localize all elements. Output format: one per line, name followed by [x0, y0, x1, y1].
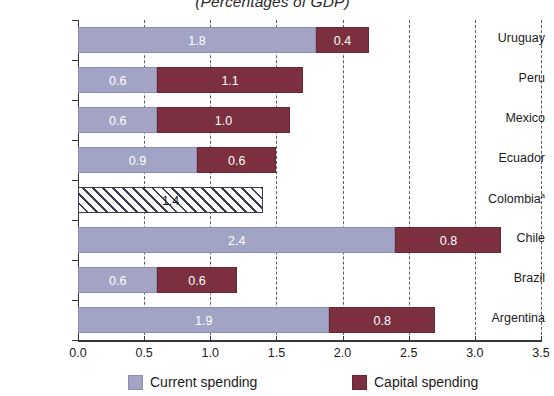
x-tick-label: 1.0 [188, 346, 232, 360]
bar-segment-capital: 1.1 [157, 67, 303, 93]
bar-segment-current: 0.9 [78, 147, 197, 173]
x-tick-label: 1.5 [254, 346, 298, 360]
bar-segment-capital: 0.8 [329, 307, 435, 333]
x-tick-label: 0.5 [122, 346, 166, 360]
bar-value-label: 1.1 [158, 68, 302, 94]
legend-label: Current spending [150, 374, 257, 390]
bar-segment-current: 0.6 [78, 107, 157, 133]
bar-value-label: 0.8 [330, 308, 434, 334]
bar-value-label: 2.4 [79, 228, 394, 254]
x-tick [276, 336, 277, 341]
y-tick [72, 60, 78, 61]
x-tick [541, 336, 542, 341]
x-tick [78, 336, 79, 341]
x-tick [409, 336, 410, 341]
footnote-marker: a [541, 191, 545, 200]
bar-segment-combined: 1.4 [78, 187, 263, 213]
legend-item-capital-spending[interactable]: Capital spending [352, 374, 478, 390]
y-tick [72, 300, 78, 301]
chart-legend: Current spendingCapital spending [0, 374, 545, 394]
x-tick [144, 336, 145, 341]
y-tick [72, 100, 78, 101]
y-tick [72, 260, 78, 261]
x-tick [343, 336, 344, 341]
bar-segment-current: 1.9 [78, 307, 329, 333]
y-axis-label-chile: Chile [471, 231, 545, 245]
x-tick-label: 2.5 [387, 346, 431, 360]
bar-segment-capital: 1.0 [157, 107, 289, 133]
x-axis-line [78, 340, 542, 342]
bar-segment-capital: 0.6 [157, 267, 236, 293]
y-tick [72, 140, 78, 141]
bar-segment-capital: 0.6 [197, 147, 276, 173]
x-tick-label: 0.0 [56, 346, 100, 360]
x-tick [475, 336, 476, 341]
legend-swatch-icon [352, 375, 367, 390]
bar-value-label: 0.6 [79, 68, 156, 94]
y-tick [72, 20, 78, 21]
legend-swatch-icon [128, 375, 143, 390]
bar-value-label: 1.4 [79, 188, 262, 214]
bar-value-label: 1.9 [79, 308, 328, 334]
bar-value-label: 0.6 [79, 108, 156, 134]
bar-value-label: 1.0 [158, 108, 288, 134]
x-tick-label: 2.0 [321, 346, 365, 360]
x-tick [210, 336, 211, 341]
y-axis-label-peru: Peru [471, 71, 545, 85]
bar-segment-current: 2.4 [78, 227, 395, 253]
bar-value-label: 0.9 [79, 148, 196, 174]
y-tick [72, 180, 78, 181]
bar-segment-current: 1.8 [78, 27, 316, 53]
legend-item-current-spending[interactable]: Current spending [128, 374, 257, 390]
y-axis-label-ecuador: Ecuador [471, 151, 545, 165]
y-axis-label-colombia: Colombiaa [471, 191, 545, 206]
chart-title: (Percentages of GDP) [0, 0, 545, 11]
y-tick [72, 340, 78, 341]
y-tick [72, 220, 78, 221]
bar-value-label: 0.6 [79, 268, 156, 294]
bar-value-label: 0.6 [198, 148, 275, 174]
bar-segment-current: 0.6 [78, 67, 157, 93]
bar-segment-capital: 0.4 [316, 27, 369, 53]
plot-area: 1.80.40.61.10.61.00.90.61.42.40.80.60.61… [78, 20, 541, 340]
bar-value-label: 1.8 [79, 28, 315, 54]
y-axis-label-brazil: Brazil [471, 271, 545, 285]
y-axis-label-mexico: Mexico [471, 111, 545, 125]
x-tick-label: 3.0 [453, 346, 497, 360]
legend-label: Capital spending [374, 374, 478, 390]
bar-value-label: 0.6 [158, 268, 235, 294]
y-axis-label-uruguay: Uruguay [471, 31, 545, 45]
bar-value-label: 0.4 [317, 28, 368, 54]
y-axis-label-argentina: Argentina [471, 311, 545, 325]
x-tick-label: 3.5 [519, 346, 554, 360]
gridline [541, 20, 542, 340]
bar-segment-current: 0.6 [78, 267, 157, 293]
